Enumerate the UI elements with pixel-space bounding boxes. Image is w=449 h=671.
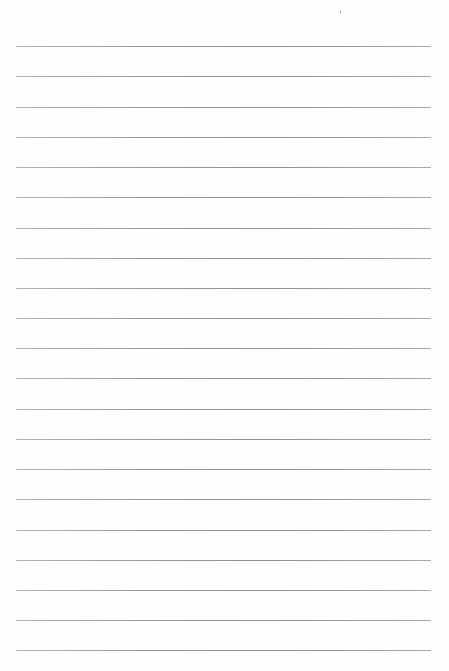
ruled-line [16,530,431,531]
ruled-line [16,76,431,77]
ruled-line [16,620,431,621]
ruled-line [16,228,431,229]
ruled-line [16,439,431,440]
ruled-line [16,137,431,138]
ruled-line [16,590,431,591]
ruled-line [16,107,431,108]
ruled-line [16,258,431,259]
ruled-line [16,288,431,289]
ruled-line [16,378,431,379]
ruled-line [16,197,431,198]
ruled-line [16,318,431,319]
ruled-line [16,560,431,561]
ruled-line [16,409,431,410]
paper-speck [340,11,341,13]
ruled-paper-page [0,0,449,671]
ruled-line [16,499,431,500]
ruled-line [16,348,431,349]
ruled-line [16,46,431,47]
ruled-line [16,167,431,168]
ruled-line [16,469,431,470]
ruled-line [16,650,431,651]
